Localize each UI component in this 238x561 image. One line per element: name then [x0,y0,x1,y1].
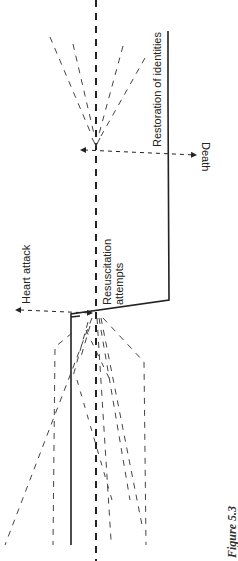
lower-fan-lines [5,318,146,545]
trajectory-top-tick [71,316,80,317]
death-arrow [84,150,196,155]
resuscitation-label-line1: Resuscitation [101,239,113,305]
restoration-of-identities-label: Restoration of identities [151,32,163,147]
upper-fan-lines [50,37,145,136]
death-label: Death [200,142,212,171]
figure-caption: Figure 5.3 [225,506,238,558]
heart-attack-label: Heart attack [20,245,32,304]
death-arrow-left-head-icon [80,147,86,153]
resuscitation-label-line2: attempts [113,263,125,305]
heart-attack-arrow-left-head-icon [15,307,21,313]
